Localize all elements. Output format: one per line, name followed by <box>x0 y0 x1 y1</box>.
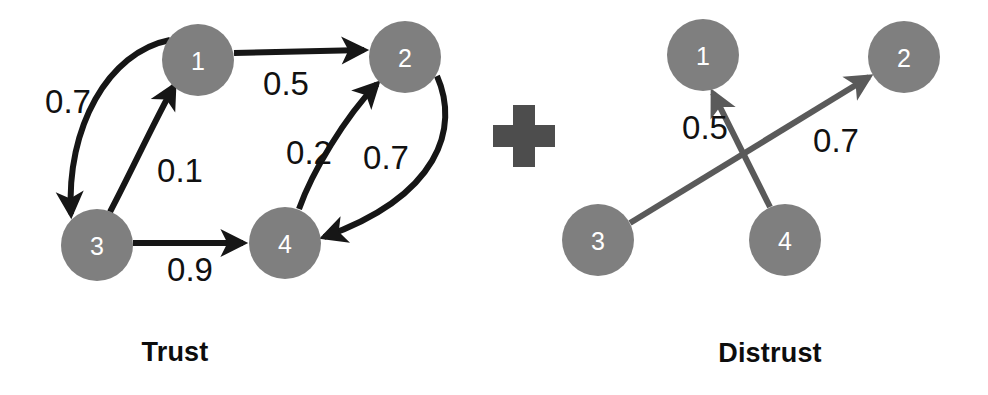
plus-shape <box>493 105 555 167</box>
node-distrust-3[interactable]: 3 <box>562 204 634 276</box>
node-label: 1 <box>696 42 710 70</box>
graph-diagram-svg: 1 2 3 4 0.7 0.5 0.1 0.2 <box>0 0 988 395</box>
node-label: 2 <box>897 44 911 72</box>
node-label: 3 <box>591 227 605 255</box>
node-distrust-2[interactable]: 2 <box>868 21 940 93</box>
edge-weight-3-to-1: 0.1 <box>157 152 203 189</box>
panel-distrust: 1 2 3 4 0.5 0.7 Distrust <box>562 19 940 368</box>
node-label: 4 <box>278 230 292 258</box>
edge-weight-4-to-2: 0.2 <box>286 134 332 171</box>
node-label: 2 <box>398 44 412 72</box>
node-trust-4[interactable]: 4 <box>249 207 321 279</box>
edge-weight-3-to-4: 0.9 <box>167 251 213 288</box>
node-label: 4 <box>778 227 792 255</box>
distrust-edge-weights: 0.5 0.7 <box>682 109 859 159</box>
node-distrust-1[interactable]: 1 <box>667 19 739 91</box>
plus-sign-icon <box>493 105 555 167</box>
edge-1-to-2 <box>234 50 364 53</box>
figure-canvas: 1 2 3 4 0.7 0.5 0.1 0.2 <box>0 0 988 395</box>
edge-weight-3-to-2: 0.7 <box>813 122 859 159</box>
node-trust-1[interactable]: 1 <box>162 24 234 96</box>
edge-weight-4-to-1: 0.5 <box>682 109 728 146</box>
node-trust-3[interactable]: 3 <box>61 209 133 281</box>
node-label: 3 <box>90 232 104 260</box>
edge-3-to-1 <box>110 86 174 212</box>
node-trust-2[interactable]: 2 <box>369 21 441 93</box>
edge-weight-2-to-4: 0.7 <box>363 139 409 176</box>
node-label: 1 <box>191 47 205 75</box>
edge-weight-1-to-2: 0.5 <box>263 65 309 102</box>
node-distrust-4[interactable]: 4 <box>749 204 821 276</box>
caption-distrust: Distrust <box>718 338 822 368</box>
panel-trust: 1 2 3 4 0.7 0.5 0.1 0.2 <box>45 21 445 367</box>
caption-trust: Trust <box>141 337 208 367</box>
edge-weight-1-to-3: 0.7 <box>45 83 91 120</box>
